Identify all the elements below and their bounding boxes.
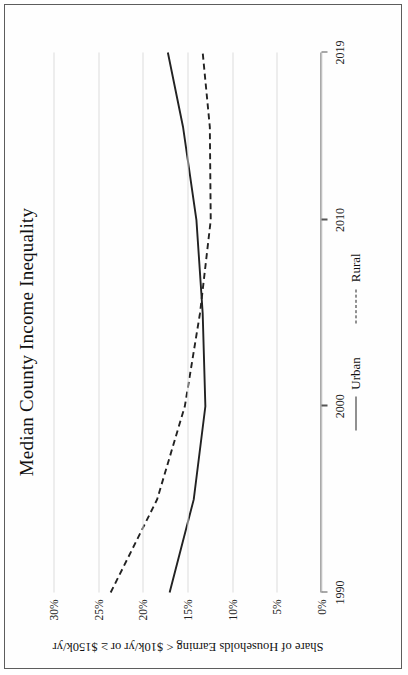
x-tick-label: 2010: [332, 208, 347, 232]
legend-label: Urban: [347, 357, 363, 390]
y-tick-label: 15%: [181, 600, 193, 621]
y-gridline: [321, 53, 322, 593]
plot-area: 0%5%10%15%20%25%30%1990200020102019: [53, 53, 321, 593]
y-tick-label: 0%: [315, 600, 327, 615]
series-line-urban: [167, 53, 205, 593]
y-tick-label: 10%: [226, 600, 238, 621]
y-gridline: [276, 53, 277, 593]
y-gridline: [187, 53, 188, 593]
y-tick-label: 20%: [136, 600, 148, 621]
series-line-rural: [110, 53, 210, 593]
page-frame: Median County Income Inequality Share of…: [4, 4, 402, 669]
y-tick-label: 5%: [270, 600, 282, 615]
legend-item-urban[interactable]: Urban: [347, 357, 363, 431]
legend-swatch-dashed-line-icon: [355, 289, 356, 323]
y-gridline: [98, 53, 99, 593]
legend-item-rural[interactable]: Rural: [347, 253, 363, 323]
x-tick-label: 2000: [332, 394, 347, 418]
chart-figure: Median County Income Inequality Share of…: [9, 14, 399, 671]
chart-legend: UrbanRural: [347, 14, 363, 671]
x-tick: [321, 51, 327, 52]
y-tick-label: 30%: [47, 600, 59, 621]
y-gridline: [53, 53, 54, 593]
x-tick: [321, 591, 327, 592]
legend-swatch-solid-line-icon: [355, 397, 356, 431]
legend-label: Rural: [347, 253, 363, 282]
x-tick: [321, 405, 327, 406]
x-tick-label: 2019: [332, 41, 347, 65]
y-axis-label: Share of Households Earning < $10k/yr or…: [53, 637, 321, 657]
y-tick-label: 25%: [92, 600, 104, 621]
y-axis-label-text: Share of Households Earning < $10k/yr or…: [52, 639, 323, 654]
x-tick-label: 1990: [332, 581, 347, 605]
chart-title: Median County Income Inequality: [15, 14, 37, 671]
x-tick: [321, 219, 327, 220]
y-gridline: [232, 53, 233, 593]
y-gridline: [142, 53, 143, 593]
